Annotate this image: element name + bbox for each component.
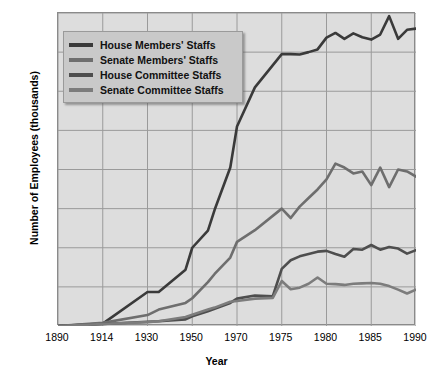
legend-line-icon [69, 43, 93, 47]
chart-legend: House Members' StaffsSenate Members' Sta… [63, 31, 243, 103]
legend-line-icon [69, 88, 93, 92]
legend-item-label: Senate Committee Staffs [100, 84, 224, 96]
legend-item[interactable]: House Committee Staffs [69, 67, 236, 82]
x-axis-tick-label: 1990 [392, 331, 433, 343]
x-axis-tick-label: 1930 [124, 331, 170, 343]
x-axis-tick-label: 1890 [34, 331, 80, 343]
legend-line-icon [69, 73, 93, 77]
x-axis-tick-label: 1980 [303, 331, 349, 343]
legend-item[interactable]: Senate Members' Staffs [69, 52, 236, 67]
x-axis-tick-label: 1950 [168, 331, 214, 343]
legend-item[interactable]: House Members' Staffs [69, 37, 236, 52]
legend-item-label: Senate Members' Staffs [100, 54, 218, 66]
legend-item-label: House Committee Staffs [100, 69, 221, 81]
legend-item-label: House Members' Staffs [100, 39, 216, 51]
legend-line-icon [69, 58, 93, 62]
x-axis-tick-label: 1970 [213, 331, 259, 343]
x-axis-tick-label: 1985 [347, 331, 393, 343]
x-axis-tick-label: 1914 [79, 331, 125, 343]
legend-item[interactable]: Senate Committee Staffs [69, 82, 236, 97]
x-axis-title: Year [0, 355, 433, 367]
x-axis-tick-label: 1975 [258, 331, 304, 343]
chart-container: Number of Employees (thousands) 01234567… [0, 0, 433, 376]
